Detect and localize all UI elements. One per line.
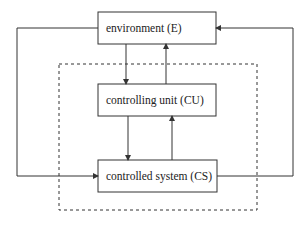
environment-label: environment (E) [106, 22, 182, 35]
environment-box: environment (E) [98, 12, 216, 44]
controlled-system-label: controlled system (CS) [106, 170, 212, 183]
controlled-system-box: controlled system (CS) [98, 160, 217, 192]
controlling-unit-label: controlling unit (CU) [106, 94, 204, 107]
arrow-env-to-cs-left-loop [17, 28, 98, 176]
arrow-cs-to-env-right-loop [216, 28, 293, 176]
control-loop-diagram: environment (E) controlling unit (CU) co… [0, 0, 308, 226]
controlling-unit-box: controlling unit (CU) [98, 84, 216, 116]
